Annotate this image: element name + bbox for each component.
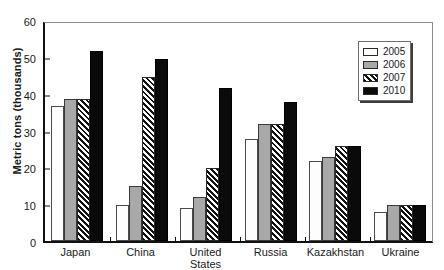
legend-item-2005[interactable]: 2005 — [363, 45, 405, 58]
bar-group — [174, 23, 239, 241]
bar-china-2007 — [142, 77, 155, 241]
group-separator — [305, 237, 306, 241]
bar-united-states-2005 — [180, 208, 193, 241]
bar-kazakhstan-2007 — [335, 146, 348, 241]
y-tick-mark — [45, 132, 50, 133]
bar-kazakhstan-2006 — [322, 157, 335, 241]
y-tick-label: 0 — [0, 237, 43, 249]
x-axis-label-russia: Russia — [238, 246, 303, 270]
bar-japan-2005 — [51, 106, 64, 241]
legend-swatch-2005 — [363, 48, 378, 56]
bar-kazakhstan-2010 — [348, 146, 361, 241]
y-tick-label: 60 — [0, 16, 43, 28]
bar-chart: Metric tons (thousands) 0102030405060 Ja… — [0, 0, 444, 270]
bar-russia-2005 — [245, 139, 258, 241]
bar-united-states-2010 — [219, 88, 232, 241]
group-separator — [240, 237, 241, 241]
bar-united-states-2006 — [193, 197, 206, 241]
bar-japan-2007 — [77, 99, 90, 241]
group-separator — [175, 237, 176, 241]
bar-ukraine-2010 — [413, 205, 426, 242]
bar-china-2006 — [129, 186, 142, 241]
x-axis-label-kazakhstan: Kazakhstan — [303, 246, 368, 270]
y-tick-mark — [45, 95, 50, 96]
bar-china-2010 — [155, 59, 168, 242]
y-tick-label: 50 — [0, 53, 43, 65]
legend-swatch-2006 — [363, 61, 378, 69]
legend-label-2010: 2010 — [383, 86, 405, 96]
bar-japan-2006 — [64, 99, 77, 241]
group-separator — [110, 237, 111, 241]
bar-group — [45, 23, 110, 241]
y-tick-label: 40 — [0, 90, 43, 102]
legend-item-2006[interactable]: 2006 — [363, 58, 405, 71]
y-tick-mark — [45, 169, 50, 170]
bar-ukraine-2007 — [400, 205, 413, 242]
legend-label-2006: 2006 — [383, 60, 405, 70]
y-tick-mark — [45, 206, 50, 207]
bar-kazakhstan-2005 — [309, 161, 322, 241]
bar-group — [110, 23, 175, 241]
bar-japan-2010 — [90, 51, 103, 241]
y-tick-label: 30 — [0, 127, 43, 139]
x-axis-labels: JapanChinaUnited StatesRussiaKazakhstanU… — [43, 246, 433, 270]
bar-russia-2006 — [258, 124, 271, 241]
bar-united-states-2007 — [206, 168, 219, 241]
chart-legend: 2005200620072010 — [358, 41, 411, 101]
legend-item-2010[interactable]: 2010 — [363, 84, 405, 97]
x-axis-label-japan: Japan — [43, 246, 108, 270]
bar-russia-2010 — [284, 102, 297, 241]
legend-label-2005: 2005 — [383, 47, 405, 57]
legend-swatch-2010 — [363, 87, 378, 95]
y-tick-label: 10 — [0, 200, 43, 212]
bar-ukraine-2005 — [374, 212, 387, 241]
bar-china-2005 — [116, 205, 129, 242]
bar-russia-2007 — [271, 124, 284, 241]
legend-swatch-2007 — [363, 74, 378, 82]
legend-label-2007: 2007 — [383, 73, 405, 83]
bar-ukraine-2006 — [387, 205, 400, 242]
group-separator — [370, 237, 371, 241]
x-axis-label-united-states: United States — [173, 246, 238, 270]
y-tick-mark — [45, 58, 50, 59]
x-axis-label-ukraine: Ukraine — [368, 246, 433, 270]
legend-item-2007[interactable]: 2007 — [363, 71, 405, 84]
y-tick-label: 20 — [0, 163, 43, 175]
bar-group — [239, 23, 304, 241]
x-axis-label-china: China — [108, 246, 173, 270]
